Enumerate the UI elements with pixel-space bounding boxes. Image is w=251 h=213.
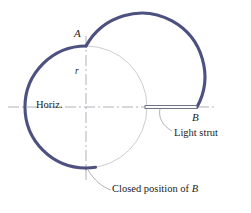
closed-position-point-b: B: [192, 183, 198, 194]
label-light-strut: Light strut: [174, 128, 218, 139]
closed-position-leader: [88, 170, 111, 190]
light-strut-leader: [160, 109, 172, 132]
label-point-a: A: [74, 28, 81, 39]
closed-position-text: Closed position of: [112, 183, 192, 194]
label-radius-r: r: [75, 67, 79, 77]
mechanism-figure: A B r Horiz. Light strut Closed position…: [0, 0, 251, 213]
light-strut-bar: [145, 106, 197, 109]
label-closed-position: Closed position of B: [112, 184, 198, 195]
label-horizontal: Horiz.: [36, 100, 63, 111]
label-point-b: B: [192, 112, 199, 123]
